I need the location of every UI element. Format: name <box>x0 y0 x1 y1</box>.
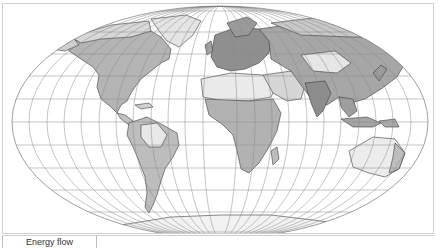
legend-label: Energy flow <box>3 237 96 247</box>
legend-cell-energy-flow: Energy flow <box>2 236 97 248</box>
africa-sub <box>205 99 281 173</box>
antarctica <box>121 215 361 234</box>
madagascar <box>271 147 279 165</box>
land-masses <box>51 15 413 234</box>
map-frame[interactable] <box>2 3 434 234</box>
legend-cell-empty <box>97 236 434 248</box>
legend-table: Energy flow <box>2 235 434 247</box>
world-map[interactable] <box>2 3 434 234</box>
new-guinea <box>379 119 399 127</box>
caribbean <box>135 103 153 109</box>
